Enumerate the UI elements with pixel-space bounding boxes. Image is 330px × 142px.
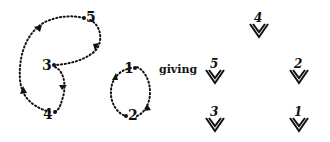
node-dot-3 — [52, 63, 56, 67]
down-arrow-icon — [204, 66, 226, 86]
edge-3-4 — [55, 67, 64, 112]
arrow-symbol-4: 4 — [248, 12, 270, 42]
arrow-symbol-2: 2 — [288, 58, 310, 88]
down-arrow-icon — [288, 66, 310, 86]
node-label-3: 3 — [42, 58, 52, 72]
arrow-symbol-5: 5 — [204, 58, 226, 88]
arrow-symbol-3: 3 — [204, 106, 226, 136]
arrowhead-icon — [59, 85, 67, 90]
node-label-1: 1 — [124, 61, 134, 75]
node-label-2: 2 — [128, 108, 138, 122]
giving-text: giving — [159, 63, 197, 76]
edge-5-3 — [55, 20, 100, 65]
down-arrow-icon — [248, 20, 270, 40]
node-label-4: 4 — [43, 107, 53, 121]
node-dot-4 — [53, 110, 57, 114]
edge-4-5 — [20, 16, 84, 112]
node-label-5: 5 — [86, 10, 96, 24]
down-arrow-icon — [288, 114, 310, 134]
down-arrow-icon — [204, 114, 226, 134]
arrow-symbol-1: 1 — [288, 106, 310, 136]
